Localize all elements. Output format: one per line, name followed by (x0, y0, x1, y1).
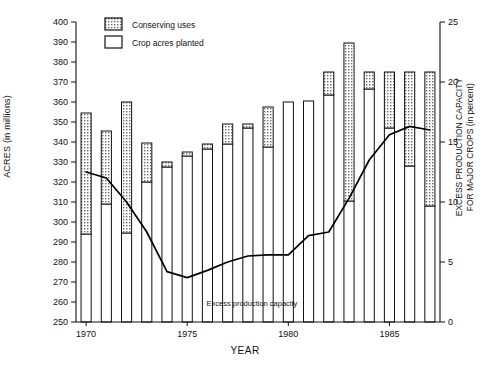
y-tick-label-right: 20 (448, 77, 458, 87)
y-tick-label-right: 5 (448, 257, 453, 267)
bar-segment-conserving-uses (122, 102, 132, 233)
bar-group (405, 72, 415, 322)
bar-segment-conserving-uses (405, 72, 415, 166)
legend-label: Conserving uses (132, 20, 195, 30)
bar-segment-conserving-uses (324, 72, 334, 95)
x-tick-label: 1975 (177, 329, 197, 339)
y-tick-label-left: 340 (53, 137, 68, 147)
chart-canvas: 2502602702802903003103203303403503603703… (0, 0, 490, 367)
legend-swatch-crop-acres-planted (105, 36, 122, 48)
bar-group (324, 72, 334, 322)
bar-group (101, 131, 111, 322)
bar-segment-conserving-uses (364, 72, 374, 89)
legend: Conserving usesCrop acres planted (105, 18, 204, 48)
bar-segment-crop-acres-planted (263, 147, 273, 322)
bar-segment-conserving-uses (243, 124, 253, 128)
annotations-group: Excess production capacity (206, 299, 297, 308)
x-tick-label: 1970 (76, 329, 96, 339)
bar-segment-conserving-uses (384, 72, 394, 128)
bar-segment-crop-acres-planted (202, 149, 212, 322)
y-tick-label-left: 390 (53, 37, 68, 47)
bar-group (202, 144, 212, 322)
bar-segment-conserving-uses (142, 143, 152, 182)
bar-group (243, 124, 253, 322)
bar-group (283, 102, 293, 322)
y-tick-label-right: 0 (448, 317, 453, 327)
bar-segment-conserving-uses (223, 124, 233, 144)
bar-segment-crop-acres-planted (122, 233, 132, 322)
bar-group (81, 113, 91, 322)
bar-segment-crop-acres-planted (324, 95, 334, 322)
bar-segment-crop-acres-planted (384, 128, 394, 322)
y-tick-label-right: 25 (448, 17, 458, 27)
bar-segment-crop-acres-planted (162, 167, 172, 322)
bar-segment-conserving-uses (101, 131, 111, 204)
bar-group (162, 162, 172, 322)
bar-segment-crop-acres-planted (425, 206, 435, 322)
y-tick-label-left: 250 (53, 317, 68, 327)
x-tick-label: 1985 (379, 329, 399, 339)
y-tick-label-left: 270 (53, 277, 68, 287)
y-tick-label-left: 380 (53, 57, 68, 67)
x-axis-ticks: 1970197519801985 (76, 322, 399, 339)
bar-segment-crop-acres-planted (101, 204, 111, 322)
bar-segment-crop-acres-planted (182, 156, 192, 322)
y-tick-label-left: 360 (53, 97, 68, 107)
legend-label: Crop acres planted (132, 38, 204, 48)
bar-segment-conserving-uses (344, 43, 354, 201)
y-tick-label-left: 290 (53, 237, 68, 247)
y-axis-left-ticks: 2502602702802903003103203303403503603703… (53, 17, 76, 327)
bar-segment-crop-acres-planted (364, 89, 374, 322)
bar-series-group (81, 43, 435, 322)
bar-segment-crop-acres-planted (283, 102, 293, 322)
y-axis-right-ticks: 0510152025 (440, 17, 458, 327)
bar-segment-conserving-uses (425, 72, 435, 206)
bar-segment-conserving-uses (162, 162, 172, 167)
y-tick-label-left: 400 (53, 17, 68, 27)
excess-production-capacity-line (86, 126, 430, 277)
bar-segment-crop-acres-planted (344, 201, 354, 322)
bar-group (182, 152, 192, 322)
bar-group (223, 124, 233, 322)
bar-group (384, 72, 394, 322)
y-tick-label-left: 300 (53, 217, 68, 227)
bar-segment-crop-acres-planted (304, 101, 314, 322)
bar-group (304, 101, 314, 322)
legend-swatch-conserving-uses (105, 18, 122, 30)
bar-segment-conserving-uses (182, 152, 192, 156)
y-tick-label-left: 280 (53, 257, 68, 267)
bar-segment-crop-acres-planted (405, 166, 415, 322)
chart-root: ACRES (in millions) EXCESS PRODUCTION CA… (0, 0, 490, 367)
bar-group (122, 102, 132, 322)
y-tick-label-right: 15 (448, 137, 458, 147)
bar-segment-conserving-uses (202, 144, 212, 149)
bar-segment-crop-acres-planted (223, 144, 233, 322)
line-series-group (86, 126, 430, 277)
bar-group (263, 107, 273, 322)
y-tick-label-left: 350 (53, 117, 68, 127)
bar-group (344, 43, 354, 322)
excess-production-capacity-label: Excess production capacity (206, 299, 297, 308)
y-tick-label-left: 320 (53, 177, 68, 187)
bar-group (364, 72, 374, 322)
bar-segment-crop-acres-planted (243, 128, 253, 322)
y-tick-label-left: 260 (53, 297, 68, 307)
x-tick-label: 1980 (278, 329, 298, 339)
y-tick-label-right: 10 (448, 197, 458, 207)
bar-segment-crop-acres-planted (81, 234, 91, 322)
y-tick-label-left: 310 (53, 197, 68, 207)
bar-segment-conserving-uses (263, 107, 273, 147)
y-tick-label-left: 370 (53, 77, 68, 87)
bar-group (425, 72, 435, 322)
bar-segment-crop-acres-planted (142, 182, 152, 322)
y-tick-label-left: 330 (53, 157, 68, 167)
